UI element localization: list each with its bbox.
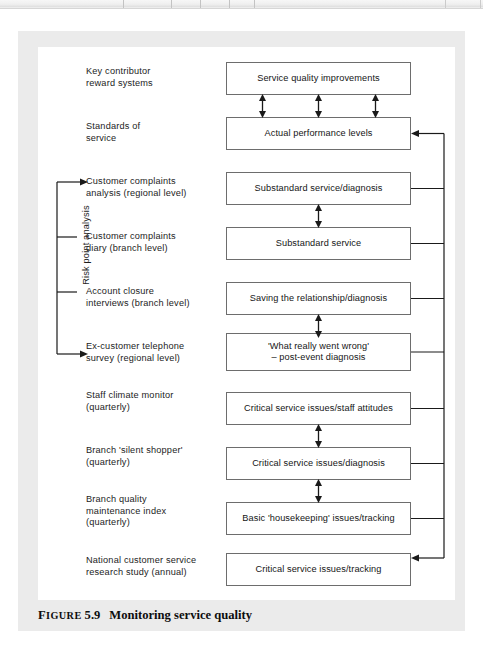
- row-label-branch-silent-shopper: Branch 'silent shopper' (quarterly): [86, 445, 222, 468]
- row-label-account-closure-interviews: Account closure interviews (branch level…: [86, 286, 222, 309]
- label-line: Customer complaints: [86, 231, 222, 243]
- node-box-text: – post-event diagnosis: [272, 352, 366, 363]
- node-box-critical-service-issues-diagnosis[interactable]: Critical service issues/diagnosis: [226, 447, 411, 480]
- node-box-what-really-went-wrong[interactable]: 'What really went wrong' – post-event di…: [226, 333, 411, 371]
- node-box-text: Substandard service/diagnosis: [255, 183, 383, 194]
- label-line: Customer complaints: [86, 176, 222, 188]
- label-line: National customer service: [86, 555, 222, 567]
- double-arrow-row5-row6-icon: [314, 314, 323, 338]
- node-box-text: Substandard service: [276, 238, 362, 249]
- row-label-branch-quality-maintenance-index: Branch quality maintenance index (quarte…: [86, 494, 222, 529]
- node-box-text: Saving the relationship/diagnosis: [250, 293, 387, 304]
- node-box-critical-service-issues-staff-attitudes[interactable]: Critical service issues/staff attitudes: [226, 392, 411, 425]
- node-box-saving-the-relationship-diagnosis[interactable]: Saving the relationship/diagnosis: [226, 282, 411, 315]
- label-line: analysis (regional level): [86, 188, 222, 200]
- node-box-text: 'What really went wrong': [268, 341, 369, 352]
- label-line: (quarterly): [86, 457, 222, 469]
- risk-point-analysis-label: Risk point analysis: [81, 165, 91, 325]
- node-box-critical-service-issues-tracking[interactable]: Critical service issues/tracking: [226, 553, 411, 586]
- row-label-ex-customer-telephone-survey: Ex-customer telephone survey (regional l…: [86, 341, 222, 364]
- row-label-customer-complaints-diary: Customer complaints diary (branch level): [86, 231, 222, 254]
- risk-point-analysis-bracket: Risk point analysis: [44, 176, 88, 360]
- label-line: Key contributor: [86, 66, 222, 78]
- node-box-actual-performance-levels[interactable]: Actual performance levels: [226, 117, 411, 150]
- row-label-standards-of-service: Standards of service: [86, 121, 222, 144]
- label-line: maintenance index: [86, 506, 222, 518]
- label-line: reward systems: [86, 78, 222, 90]
- node-box-text: Critical service issues/staff attitudes: [244, 403, 393, 414]
- monitoring-service-quality-diagram: Key contributor reward systems Standards…: [0, 0, 483, 657]
- label-line: Ex-customer telephone: [86, 341, 222, 353]
- label-line: interviews (branch level): [86, 298, 222, 310]
- label-line: research study (annual): [86, 567, 222, 579]
- label-line: service: [86, 133, 222, 145]
- label-line: survey (regional level): [86, 353, 222, 365]
- figure-caption-prefix: FIGURE: [38, 610, 82, 621]
- label-line: (quarterly): [86, 402, 222, 414]
- double-arrow-row1-row2-left-icon: [258, 94, 267, 118]
- node-box-service-quality-improvements[interactable]: Service quality improvements: [226, 62, 411, 95]
- right-feedback-bus: [411, 110, 455, 565]
- label-line: Account closure: [86, 286, 222, 298]
- figure-caption-title: Monitoring service quality: [109, 608, 252, 622]
- double-arrow-row1-row2-middle-icon: [314, 94, 323, 118]
- node-box-text: Actual performance levels: [264, 128, 372, 139]
- double-arrow-row8-row9-icon: [314, 479, 323, 503]
- node-box-text: Critical service issues/diagnosis: [252, 458, 385, 469]
- figure-caption-number: 5.9: [85, 608, 101, 622]
- label-line: Branch 'silent shopper': [86, 445, 222, 457]
- node-box-text: Critical service issues/tracking: [256, 564, 382, 575]
- label-line: Branch quality: [86, 494, 222, 506]
- node-box-substandard-service[interactable]: Substandard service: [226, 227, 411, 260]
- figure-caption: FIGURE5.9Monitoring service quality: [38, 608, 252, 623]
- double-arrow-row3-row4-icon: [314, 204, 323, 228]
- node-box-substandard-service-diagnosis[interactable]: Substandard service/diagnosis: [226, 172, 411, 205]
- row-label-customer-complaints-analysis: Customer complaints analysis (regional l…: [86, 176, 222, 199]
- node-box-text: Service quality improvements: [257, 73, 380, 84]
- row-label-staff-climate-monitor: Staff climate monitor (quarterly): [86, 390, 222, 413]
- label-line: Staff climate monitor: [86, 390, 222, 402]
- node-box-text: Basic 'housekeeping' issues/tracking: [242, 513, 394, 524]
- label-line: Standards of: [86, 121, 222, 133]
- double-arrow-row1-row2-right-icon: [371, 94, 380, 118]
- row-label-national-customer-service-research: National customer service research study…: [86, 555, 222, 578]
- node-box-basic-housekeeping-issues-tracking[interactable]: Basic 'housekeeping' issues/tracking: [226, 502, 411, 535]
- label-line: (quarterly): [86, 517, 222, 529]
- row-label-key-contributor-reward-systems: Key contributor reward systems: [86, 66, 222, 89]
- label-line: diary (branch level): [86, 243, 222, 255]
- double-arrow-row7-row8-icon: [314, 424, 323, 448]
